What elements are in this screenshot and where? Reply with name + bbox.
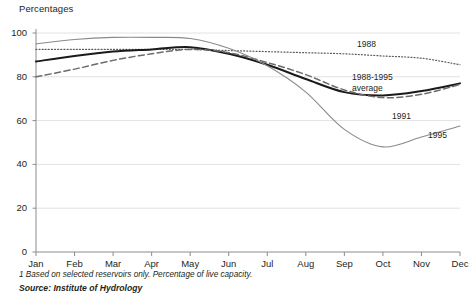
y-tick-label: 100 [1, 27, 27, 38]
series-label-1991: 1991 [392, 111, 411, 122]
y-tick-label: 0 [1, 246, 27, 257]
x-tick-label: Sep [324, 258, 364, 269]
x-tick-label: Oct [363, 258, 403, 269]
line-chart [0, 0, 472, 299]
axes [33, 29, 461, 256]
series-path-1988-1995-average [36, 47, 460, 95]
series-label-average-line2: average [352, 83, 383, 93]
y-tick-label: 20 [1, 202, 27, 213]
x-tick-label: Jun [209, 258, 249, 269]
x-tick-label: Apr [132, 258, 172, 269]
x-tick-label: Jan [16, 258, 56, 269]
series-label-1995: 1995 [428, 130, 447, 141]
source-note: Source: Institute of Hydrology [19, 283, 142, 293]
y-tick-label: 40 [1, 158, 27, 169]
x-tick-label: Mar [93, 258, 133, 269]
y-tick-label: 60 [1, 115, 27, 126]
series-label-average: 1988-1995average [352, 72, 393, 93]
x-tick-label: Jul [247, 258, 287, 269]
footnote: 1 Based on selected reservoirs only. Per… [19, 270, 252, 279]
y-tick-label: 80 [1, 71, 27, 82]
series-label-1988: 1988 [357, 39, 376, 50]
x-tick-label: May [170, 258, 210, 269]
x-tick-label: Nov [401, 258, 441, 269]
series-label-average-line1: 1988-1995 [352, 72, 393, 82]
series-lines [36, 37, 460, 147]
x-tick-label: Dec [440, 258, 472, 269]
x-tick-label: Aug [286, 258, 326, 269]
x-tick-label: Feb [55, 258, 95, 269]
